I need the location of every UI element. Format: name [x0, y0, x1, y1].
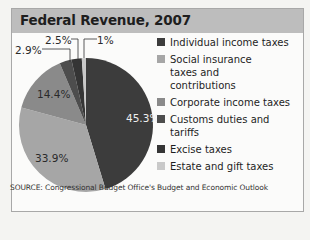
legend-swatch	[157, 145, 165, 153]
legend-label: Corporate income taxes	[170, 96, 290, 109]
leader-line	[84, 39, 97, 58]
source-note: SOURCE: Congressional Budget Office's Bu…	[10, 183, 268, 192]
leader-line	[42, 49, 70, 62]
legend-label: Excise taxes	[170, 143, 232, 156]
legend-item-customs: Customs duties and tariffs	[157, 113, 291, 139]
legend-swatch	[157, 162, 165, 170]
legend-label: Estate and gift taxes	[170, 160, 273, 173]
label-customs: 2.9%	[15, 44, 42, 56]
legend-swatch	[157, 55, 165, 63]
leader-line	[71, 39, 78, 60]
label-excise: 2.5%	[45, 34, 72, 46]
legend-swatch	[157, 115, 165, 123]
legend-swatch	[157, 38, 165, 46]
legend-item-excise: Excise taxes	[157, 143, 291, 156]
legend-item-corporate: Corporate income taxes	[157, 96, 291, 109]
legend-item-social: Social insurance taxes and contributions	[157, 53, 291, 92]
legend-item-individual: Individual income taxes	[157, 36, 291, 49]
legend-swatch	[157, 98, 165, 106]
legend-label: Individual income taxes	[170, 36, 289, 49]
label-individual: 45.3%	[126, 112, 159, 124]
chart-legend: Individual income taxes Social insurance…	[157, 36, 291, 177]
legend-label: Customs duties and tariffs	[170, 113, 291, 139]
label-corporate: 14.4%	[37, 88, 70, 100]
legend-item-estate: Estate and gift taxes	[157, 160, 291, 173]
label-estate: 1%	[97, 34, 114, 46]
label-social: 33.9%	[35, 152, 68, 164]
legend-label: Social insurance taxes and contributions	[170, 53, 270, 92]
